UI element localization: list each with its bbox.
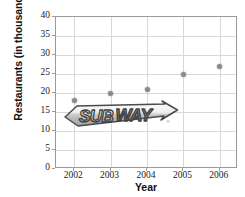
y-tick-mark xyxy=(52,54,55,55)
x-tick-label: 2002 xyxy=(53,170,93,180)
y-tick-label: 25 xyxy=(28,68,50,77)
x-tick-mark xyxy=(110,168,111,171)
y-gridline xyxy=(56,74,236,75)
y-tick-mark xyxy=(52,130,55,131)
x-tick-mark xyxy=(73,168,74,171)
data-point xyxy=(108,91,113,96)
y-tick-mark xyxy=(52,168,55,169)
y-gridline xyxy=(56,36,236,37)
y-tick-mark xyxy=(52,92,55,93)
y-gridline xyxy=(56,93,236,94)
y-gridline xyxy=(56,112,236,113)
data-point xyxy=(217,64,222,69)
x-gridline xyxy=(220,17,221,167)
x-gridline xyxy=(147,17,148,167)
y-tick-label: 15 xyxy=(28,106,50,115)
scatter-chart: Restaurants (in thousands) 0510152025303… xyxy=(0,0,245,197)
x-tick-label: 2006 xyxy=(199,170,239,180)
y-tick-label: 20 xyxy=(28,87,50,96)
x-tick-mark xyxy=(182,168,183,171)
x-gridline xyxy=(183,17,184,167)
y-gridline xyxy=(56,131,236,132)
y-axis-title: Restaurants (in thousands) xyxy=(11,0,25,130)
y-gridline xyxy=(56,55,236,56)
data-point xyxy=(181,72,186,77)
y-tick-mark xyxy=(52,149,55,150)
y-tick-label: 40 xyxy=(28,11,50,20)
y-tick-label: 30 xyxy=(28,49,50,58)
y-tick-mark xyxy=(52,111,55,112)
y-tick-mark xyxy=(52,35,55,36)
y-gridline xyxy=(56,150,236,151)
y-tick-mark xyxy=(52,73,55,74)
x-tick-mark xyxy=(219,168,220,171)
x-tick-mark xyxy=(146,168,147,171)
x-tick-label: 2004 xyxy=(126,170,166,180)
x-axis-title: Year xyxy=(55,181,237,193)
x-tick-label: 2003 xyxy=(90,170,130,180)
y-tick-label: 0 xyxy=(28,163,50,172)
x-gridline xyxy=(74,17,75,167)
y-tick-label: 35 xyxy=(28,30,50,39)
y-tick-label: 5 xyxy=(28,144,50,153)
data-point xyxy=(145,87,150,92)
x-tick-label: 2005 xyxy=(162,170,202,180)
y-tick-mark xyxy=(52,16,55,17)
y-tick-label: 10 xyxy=(28,125,50,134)
plot-area xyxy=(55,16,237,168)
data-point xyxy=(72,98,77,103)
